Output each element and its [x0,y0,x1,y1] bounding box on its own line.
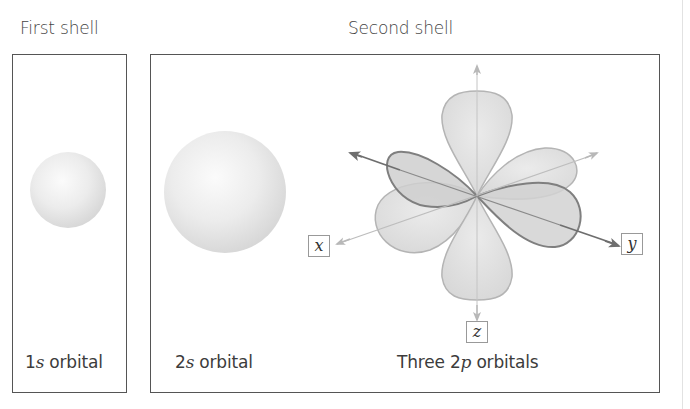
2s-orbital-caption: 2s orbital [175,352,253,372]
orbital-diagram [0,0,690,409]
caption-orbital-letter: s [186,352,195,372]
caption-suffix: orbital [194,352,253,372]
caption-prefix: Three 2 [397,352,461,372]
caption-orbital-letter: s [36,352,45,372]
1s-orbital-caption: 1s orbital [25,352,103,372]
2p-orbitals-caption: Three 2p orbitals [397,352,538,372]
2s-orbital-sphere [164,131,286,253]
z-axis-label: z [466,321,488,343]
caption-suffix: orbitals [471,352,538,372]
1s-orbital-sphere [30,152,106,228]
caption-prefix: 2 [175,352,186,372]
caption-suffix: orbital [44,352,103,372]
caption-prefix: 1 [25,352,36,372]
2p-orbitals [337,66,619,320]
x-axis-label: x [308,235,330,257]
caption-orbital-letter: p [461,352,472,372]
y-axis-label: y [621,233,643,255]
